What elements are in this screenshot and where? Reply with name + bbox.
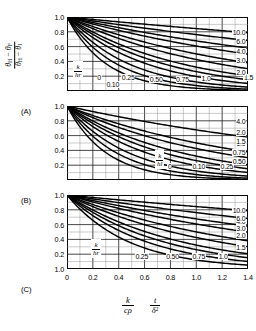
curve-label-right-10p0: 10.0 (232, 29, 246, 36)
y-tick-label: 1.0 (55, 265, 64, 274)
y-tick-label: 0.8 (55, 27, 64, 36)
x-tick-label: 0.6 (140, 273, 149, 282)
x-tick-label: 1.2 (217, 273, 226, 282)
curve-label-0p25: 0.25 (121, 74, 135, 81)
curve-label-0p75: 0.75 (192, 253, 206, 260)
x-tick-label: 0 (65, 273, 69, 282)
plot-panel-a: 00.100.250.500.751.01.52.03.04.06.010.0k… (67, 17, 248, 91)
curve-label-right-2p0: 2.0 (236, 232, 246, 239)
y-tick-label: 0.6 (55, 42, 64, 51)
panel-letter-a: (A) (21, 107, 31, 116)
plot-panel-b: 00.100.250.500.751.01.52.04.0khl (67, 106, 248, 180)
curve-label-0p10: 0.10 (192, 163, 206, 170)
curve-label-right-2p0: 2.0 (236, 129, 246, 136)
x-tick-label: 0.4 (114, 273, 123, 282)
curve-label-0: 0 (167, 163, 172, 170)
y-tick-label: 0.8 (55, 116, 64, 125)
y-tick-label: 0.4 (55, 146, 64, 155)
y-tick-label: 0.2 (55, 250, 64, 259)
curve-label-right-3p0: 3.0 (236, 225, 246, 232)
plot-panel-c: 0.250.500.751.01.52.03.04.06.010.0khr (67, 195, 248, 269)
y-axis-label: θH − θF θH − θI (2, 12, 28, 98)
parameter-symbol: khl (155, 150, 164, 169)
y-tick-label: 0.6 (55, 131, 64, 140)
y-tick-label: 0.8 (55, 205, 64, 214)
curve-label-right-1p5: 1.5 (236, 244, 246, 251)
curve-label-0p75: 0.75 (176, 76, 190, 83)
panel-letter-c: (C) (21, 285, 32, 294)
thermal-response-chart: θH − θF θH − θI k cρ t δ2 00.100.250.500… (0, 0, 256, 331)
curve-label-right-4p0: 4.0 (236, 48, 246, 55)
x-axis-label: k cρ t δ2 (122, 296, 160, 315)
curve-label-0: 0 (97, 74, 102, 81)
curve-label-right-0p50: 0.50 (232, 158, 246, 165)
curve-label-right-6p0: 6.0 (236, 38, 246, 45)
panel-letter-b: (B) (21, 196, 31, 205)
parameter-symbol: khr (73, 61, 83, 80)
y-tick-label: 0.2 (55, 72, 64, 81)
curve-label-right-6p0: 6.0 (236, 215, 246, 222)
y-tick-label: 0.2 (55, 161, 64, 170)
curve-label-1p0: 1.0 (201, 75, 211, 82)
curve-label-1p0: 1.0 (218, 253, 228, 260)
y-tick-label: 0.6 (55, 220, 64, 229)
curve-label-0p10: 0.10 (106, 81, 120, 88)
curve-label-right-0p75: 0.75 (232, 149, 246, 156)
curve-label-right-10p0: 10.0 (232, 207, 246, 214)
y-tick-label: 0.4 (55, 235, 64, 244)
curve-label-right-1p5: 1.5 (236, 138, 246, 145)
y-tick-label: 1.0 (55, 102, 64, 111)
y-tick-label: 1.0 (55, 191, 64, 200)
curve-label-0p50: 0.50 (166, 253, 180, 260)
x-tick-label: 0.2 (88, 273, 97, 282)
parameter-symbol: khr (91, 239, 101, 258)
curve-label-0p25: 0.25 (135, 253, 149, 260)
x-tick-label: 1.0 (192, 273, 201, 282)
curve-label-0p50: 0.50 (149, 76, 163, 83)
y-tick-label: 0.4 (55, 57, 64, 66)
curve-label-right-3p0: 3.0 (236, 57, 246, 64)
curve-label-right-4p0: 4.0 (236, 118, 246, 125)
x-tick-label: 1.4 (243, 273, 252, 282)
y-tick-label: 1.0 (55, 13, 64, 22)
x-tick-label: 0.8 (166, 273, 175, 282)
curve-label-right-2p0: 2.0 (236, 69, 246, 76)
